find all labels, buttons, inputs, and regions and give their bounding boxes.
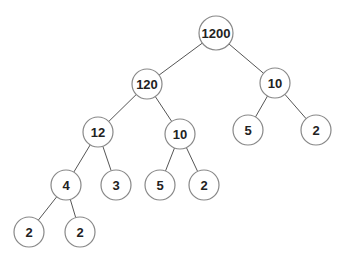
node-label: 2: [200, 178, 207, 193]
tree-node-n10r: 10: [260, 68, 290, 98]
factor-tree-diagram: 120012010121052435222: [0, 0, 345, 261]
node-label: 10: [268, 76, 282, 91]
tree-edge: [159, 43, 202, 75]
tree-edge: [70, 199, 75, 217]
node-label: 2: [312, 123, 319, 138]
tree-node-n1200: 1200: [199, 16, 233, 50]
tree-edge: [255, 96, 267, 117]
tree-node-n10m: 10: [165, 119, 195, 149]
tree-node-n2r: 2: [301, 115, 331, 145]
node-label: 5: [244, 123, 251, 138]
tree-edge: [285, 94, 306, 118]
node-label: 4: [62, 178, 70, 193]
tree-edge: [155, 97, 171, 122]
tree-node-n12: 12: [83, 117, 113, 147]
node-label: 120: [136, 77, 158, 92]
node-label: 10: [173, 127, 187, 142]
tree-node-n5r: 5: [233, 115, 263, 145]
tree-node-n5m: 5: [145, 170, 175, 200]
node-label: 3: [112, 178, 119, 193]
tree-edge: [109, 94, 137, 121]
tree-nodes: 120012010121052435222: [14, 16, 331, 247]
tree-edge: [165, 148, 174, 171]
tree-node-n2m: 2: [189, 170, 219, 200]
tree-node-n3: 3: [101, 170, 131, 200]
tree-edge: [38, 197, 56, 220]
node-label: 1200: [202, 26, 231, 41]
node-label: 2: [25, 225, 32, 240]
node-label: 12: [91, 125, 105, 140]
tree-edge: [229, 44, 264, 73]
tree-edge: [186, 148, 197, 172]
node-label: 2: [76, 225, 83, 240]
tree-node-n2lr: 2: [65, 217, 95, 247]
tree-node-n2ll: 2: [14, 217, 44, 247]
tree-edge: [74, 145, 90, 172]
node-label: 5: [156, 178, 163, 193]
tree-edge: [103, 146, 111, 171]
tree-node-n120: 120: [132, 69, 162, 99]
tree-node-n4: 4: [51, 170, 81, 200]
